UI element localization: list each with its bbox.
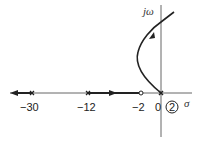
real-axis-label: σ: [184, 97, 190, 109]
zero-marker: [139, 91, 143, 95]
arrow-up-icon: [149, 32, 155, 39]
tick-label-zero: 0: [155, 101, 161, 113]
arrow-right-icon: [109, 90, 117, 96]
arrow-left-icon: [10, 90, 18, 96]
tick-label-minus-2: −2: [132, 101, 145, 113]
multiplicity-label: 2: [169, 101, 175, 113]
tick-label-minus-12: −12: [77, 101, 96, 113]
locus-complex-branch: [137, 12, 174, 93]
root-locus-diagram: jω σ −30 −12 −2 0 2: [0, 0, 202, 142]
imag-axis-label: jω: [141, 5, 154, 17]
tick-label-minus-30: −30: [20, 101, 39, 113]
